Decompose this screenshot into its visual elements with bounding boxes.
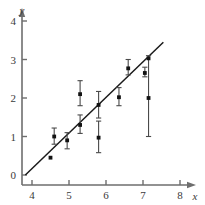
data-point-marker xyxy=(117,95,121,99)
data-point-marker xyxy=(49,156,53,160)
x-tick-label: 4 xyxy=(29,189,35,201)
data-point-marker xyxy=(143,71,147,75)
x-tick-label: 7 xyxy=(140,189,146,201)
scatter-plot-with-error-bars: 01234 45678 y x xyxy=(0,0,205,205)
x-axis-label: x xyxy=(192,190,198,202)
data-point-marker xyxy=(52,135,56,139)
data-point-marker xyxy=(97,103,101,107)
data-point-marker xyxy=(78,92,82,96)
y-tick-label: 4 xyxy=(11,15,17,27)
data-point-marker xyxy=(147,96,151,100)
y-tick-label: 3 xyxy=(11,54,17,66)
data-point-marker xyxy=(147,56,151,60)
x-tick-label: 5 xyxy=(66,189,72,201)
data-point-marker xyxy=(126,66,130,70)
x-tick-label: 6 xyxy=(103,189,109,201)
y-tick-label: 0 xyxy=(11,169,17,181)
y-tick-label: 1 xyxy=(11,131,17,143)
x-axis-ticks: 45678 xyxy=(29,180,183,201)
x-tick-label: 8 xyxy=(177,189,183,201)
error-bars-group xyxy=(52,56,152,153)
chart-figure: 01234 45678 y x xyxy=(0,0,205,205)
y-axis-label: y xyxy=(19,4,25,16)
data-point-marker xyxy=(65,138,69,142)
data-point-marker xyxy=(97,136,101,140)
data-markers-group xyxy=(49,56,151,159)
axes-group xyxy=(19,8,196,188)
data-point-marker xyxy=(78,123,82,127)
y-tick-label: 2 xyxy=(11,92,17,104)
best-fit-line xyxy=(25,42,163,175)
x-axis-arrowhead xyxy=(187,182,196,188)
y-axis-ticks: 01234 xyxy=(11,15,28,181)
